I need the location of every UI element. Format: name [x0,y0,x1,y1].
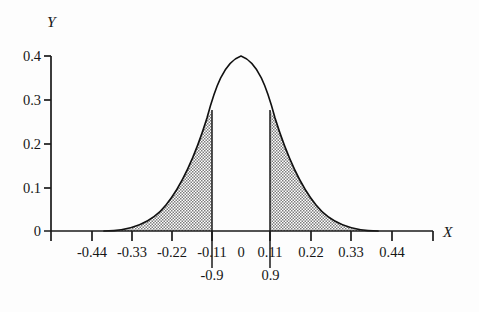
left-tail-shaded-region [108,110,212,231]
chart-figure: Y X 0.4 0.3 0.2 0.1 0 -0.44 -0.33 -0.22 … [0,0,479,312]
x-axis-label: X [443,224,452,240]
y-tick-label-0.1: 0.1 [0,181,41,196]
right-tail-shaded-region [270,110,374,231]
y-tick-label-0.3: 0.3 [0,93,41,108]
y-tick-label-0.4: 0.4 [0,49,41,64]
x-tick-label-0.44: 0.44 [362,245,422,260]
normal-density-curve [104,56,378,231]
y-axis-label: Y [47,14,56,30]
cut-label-positive-0.9: 0.9 [243,268,298,283]
y-tick-label-0: 0 [0,224,41,239]
cut-label-negative-0.9: -0.9 [182,268,242,283]
y-tick-label-0.2: 0.2 [0,137,41,152]
normal-distribution-plot [0,0,479,312]
